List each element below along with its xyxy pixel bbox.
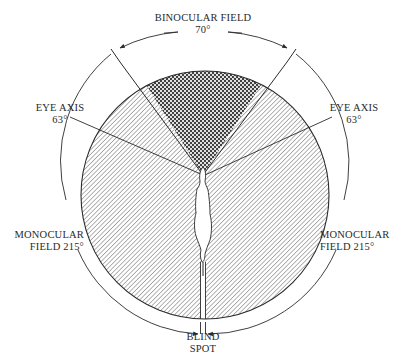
- eye-axis-left-title: EYE AXIS: [30, 102, 90, 114]
- eye-axis-left-angle: 63°: [30, 114, 90, 126]
- monocular-left-line2: FIELD 215°: [8, 241, 84, 253]
- blind-spot-line2: SPOT: [173, 343, 233, 355]
- monocular-right-line1: MONOCULAR: [320, 229, 400, 241]
- binocular-angle: 70°: [148, 24, 258, 36]
- binocular-title: BINOCULAR FIELD: [148, 12, 258, 24]
- eye-axis-right-angle: 63°: [324, 114, 384, 126]
- diagram-graphic: [0, 0, 403, 358]
- binocular-field-label: BINOCULAR FIELD 70°: [148, 12, 258, 36]
- blind-spot-line1: BLIND: [173, 331, 233, 343]
- monocular-left-line1: MONOCULAR: [8, 229, 84, 241]
- eye-axis-left-label: EYE AXIS 63°: [30, 102, 90, 126]
- monocular-field-right-label: MONOCULAR FIELD 215°: [320, 229, 400, 253]
- eye-axis-right-label: EYE AXIS 63°: [324, 102, 384, 126]
- blind-spot-label: BLIND SPOT: [173, 331, 233, 355]
- monocular-right-line2: FIELD 215°: [320, 241, 400, 253]
- eye-axis-right-title: EYE AXIS: [324, 102, 384, 114]
- visual-field-diagram: BINOCULAR FIELD 70° EYE AXIS 63° EYE AXI…: [0, 0, 403, 358]
- monocular-field-left-label: MONOCULAR FIELD 215°: [8, 229, 84, 253]
